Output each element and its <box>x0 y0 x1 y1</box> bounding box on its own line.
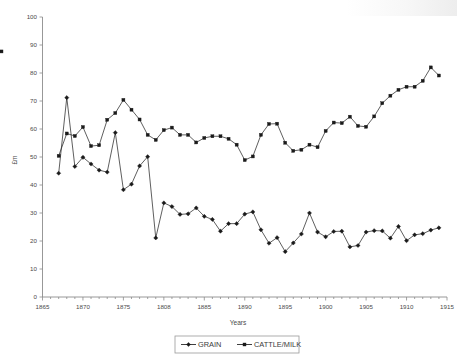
data-point-marker <box>219 135 222 138</box>
data-point-marker <box>397 88 400 91</box>
data-point-marker <box>90 145 93 148</box>
data-point-marker <box>307 211 311 215</box>
data-point-marker <box>340 122 343 125</box>
data-point-marker <box>437 74 440 77</box>
data-point-marker <box>316 146 319 149</box>
chart-legend: GRAINCATTLE/MILK <box>175 336 301 353</box>
data-point-marker <box>154 236 158 240</box>
y-tick-label: 100 <box>27 13 38 20</box>
series-grain <box>57 96 441 254</box>
data-point-marker <box>114 112 117 115</box>
data-point-marker <box>251 210 255 214</box>
data-point-marker <box>373 115 376 118</box>
x-tick-label: 1905 <box>359 303 373 310</box>
x-tick-label: 1870 <box>76 303 90 310</box>
y-tick-label: 50 <box>30 153 37 160</box>
data-point-marker <box>130 108 133 111</box>
data-point-marker <box>324 129 327 132</box>
x-tick-label: 1808 <box>157 303 171 310</box>
data-point-marker <box>364 230 368 234</box>
data-point-marker <box>276 122 279 125</box>
data-point-marker <box>284 141 287 144</box>
data-point-marker <box>259 133 262 136</box>
y-tick-label: 20 <box>30 237 37 244</box>
data-point-marker <box>437 226 441 230</box>
data-point-marker <box>154 138 157 141</box>
y-axis-title: £m <box>11 155 18 165</box>
x-tick-label: 1895 <box>278 303 292 310</box>
x-axis: 1865187018751808188518901895190019051910… <box>36 297 455 310</box>
data-point-marker <box>73 135 76 138</box>
y-tick-label: 10 <box>30 265 37 272</box>
data-point-marker <box>429 228 433 232</box>
legend-marker-square <box>243 343 246 346</box>
data-point-marker <box>211 135 214 138</box>
data-point-marker <box>243 159 246 162</box>
data-point-marker <box>57 171 61 175</box>
data-point-marker <box>122 98 125 101</box>
line-chart: 0102030405060708090100 18651870187518081… <box>0 0 457 364</box>
x-tick-label: 1900 <box>319 303 333 310</box>
data-point-marker <box>0 50 3 53</box>
series-line-path <box>59 98 439 252</box>
data-point-marker <box>421 232 425 236</box>
data-point-marker <box>113 131 117 135</box>
data-point-marker <box>179 133 182 136</box>
data-point-marker <box>195 141 198 144</box>
data-point-marker <box>235 143 238 146</box>
data-point-marker <box>57 154 60 157</box>
data-point-marker <box>187 133 190 136</box>
data-point-marker <box>251 155 254 158</box>
x-tick-label: 1885 <box>197 303 211 310</box>
data-point-marker <box>259 228 263 232</box>
data-point-marker <box>138 118 141 121</box>
data-point-marker <box>413 85 416 88</box>
data-point-marker <box>210 217 214 221</box>
data-point-marker <box>203 136 206 139</box>
data-point-marker <box>315 230 319 234</box>
data-point-marker <box>162 129 165 132</box>
data-point-marker <box>98 144 101 147</box>
data-point-marker <box>332 121 335 124</box>
data-point-marker <box>340 229 344 233</box>
data-point-marker <box>65 132 68 135</box>
x-axis-title: Years <box>230 319 247 326</box>
data-point-marker <box>348 245 352 249</box>
data-point-marker <box>396 224 400 228</box>
data-point-marker <box>292 149 295 152</box>
data-point-marker <box>372 229 376 233</box>
data-point-marker <box>162 201 166 205</box>
axis-titles: £m Years <box>11 155 247 326</box>
data-point-marker <box>81 126 84 129</box>
legend-label: CATTLE/MILK <box>254 340 301 349</box>
data-point-marker <box>356 243 360 247</box>
x-tick-label: 1915 <box>440 303 454 310</box>
x-tick-label: 1875 <box>117 303 131 310</box>
data-point-marker <box>146 133 149 136</box>
data-point-marker <box>227 137 230 140</box>
data-point-marker <box>421 79 424 82</box>
data-point-marker <box>357 124 360 127</box>
legend-label: GRAIN <box>198 340 221 349</box>
data-point-marker <box>381 102 384 105</box>
y-axis: 0102030405060708090100 <box>27 13 43 300</box>
data-point-marker <box>332 229 336 233</box>
data-point-marker <box>170 126 173 129</box>
data-point-marker <box>308 143 311 146</box>
data-point-marker <box>389 94 392 97</box>
data-point-marker <box>105 170 109 174</box>
x-tick-label: 1910 <box>400 303 414 310</box>
x-tick-label: 1865 <box>36 303 50 310</box>
data-point-marker <box>324 235 328 239</box>
data-point-marker <box>65 96 69 100</box>
data-point-marker <box>348 115 351 118</box>
y-tick-label: 40 <box>30 181 37 188</box>
y-tick-label: 0 <box>34 293 38 300</box>
data-point-marker <box>365 125 368 128</box>
x-tick-label: 1890 <box>238 303 252 310</box>
y-tick-label: 80 <box>30 69 37 76</box>
data-point-marker <box>429 66 432 69</box>
y-tick-label: 60 <box>30 125 37 132</box>
data-point-marker <box>106 118 109 121</box>
chart-figure: 0102030405060708090100 18651870187518081… <box>0 0 457 364</box>
